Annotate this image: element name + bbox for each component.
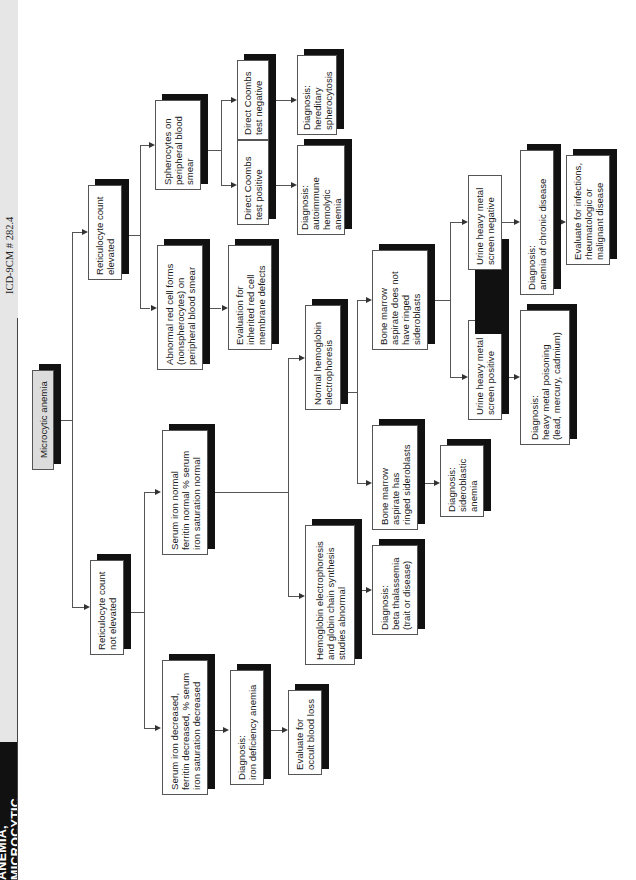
node-microcytic-anemia: Microcytic anemia [32,370,54,470]
node-retic-not-elevated: Reticulocyte count not elevated [90,560,124,655]
node-dx-chronic-disease: Diagnosis: anemia of chronic disease [520,150,554,295]
node-coombs-negative: Direct Coombs test negative [237,60,269,140]
node-dx-sideroblastic: Diagnosis: sideroblastic anemia [440,445,484,517]
node-abnormal-red-cell-forms: Abnormal red cell forms (nonspherocytes)… [157,245,203,370]
node-evaluate-occult-blood-loss: Evaluate for occult blood loss [288,690,322,775]
node-dx-autoimmune-hemolytic: Diagnosis: autoimmune hemolytic anemia [297,145,345,235]
node-dx-iron-deficiency: Diagnosis: iron deficiency anemia [230,670,264,785]
node-bm-ringed-sideroblasts: Bone marrow aspirate has ringed siderobl… [372,425,418,530]
icd-code: ICD-9CM # 282.4 [0,200,18,310]
node-normal-hb-electrophoresis: Normal hemoglobin electrophoresis [305,305,341,410]
node-dx-hereditary-spherocytosis: Diagnosis: hereditary spherocytosis [297,55,337,135]
node-evaluate-infections: Evaluate for infections, rheumatologic o… [566,155,610,265]
node-urine-positive: Urine heavy metal screen positive [468,320,502,420]
node-urine-negative: Urine heavy metal screen negative [468,175,502,270]
node-coombs-positive: Direct Coombs test positive [237,140,269,225]
node-retic-elevated: Reticulocyte count elevated [88,185,122,280]
node-evaluation-inherited-defects: Evaluation for inherited red cell membra… [228,245,272,350]
node-spherocytes: Spherocytes on peripheral blood smear [155,100,201,190]
header-rule [17,318,18,880]
node-hb-electrophoresis-abnormal: Hemoglobin electrophoresis and globin ch… [305,525,355,665]
node-serum-iron-normal: Serum iron normal ferritin normal % seru… [162,430,208,555]
node-bm-not-ringed: Bone marrow aspirate does not have ringe… [372,250,428,350]
node-dx-heavy-metal: Diagnosis: heavy metal poisoning (lead, … [520,310,570,445]
node-dx-beta-thalassemia: Diagnosis: beta thalassemia (trait or di… [372,545,418,635]
node-serum-iron-decreased: Serum iron decreased, ferritin decreased… [162,660,208,795]
page-title: ANEMIA, MICROCYTIC [0,742,18,880]
